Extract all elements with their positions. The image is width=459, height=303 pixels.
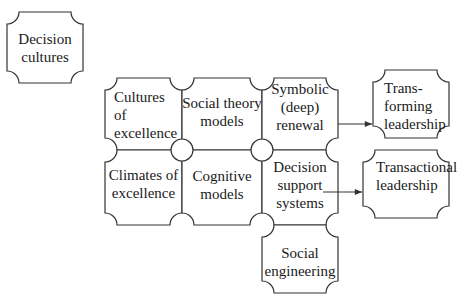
symbolic-renewal-label: Symbolic (deep) renewal [262,76,338,138]
climates-of-excellence-label: Climates of excellence [105,152,182,216]
decision-support-systems-label: Decision support systems [262,152,338,218]
social-theory-models-label: Social theory models [182,78,262,146]
cultures-of-excellence-label: Cultures of excellence [114,80,182,150]
social-engineering-label: Social engineering [262,236,338,288]
transforming-leadership-label: Trans- forming leadership [384,76,448,136]
decision-cultures-label: Decision cultures [7,12,83,83]
cognitive-models-label: Cognitive models [182,152,262,218]
transactional-leadership-label: Transactional leadership [376,156,448,196]
